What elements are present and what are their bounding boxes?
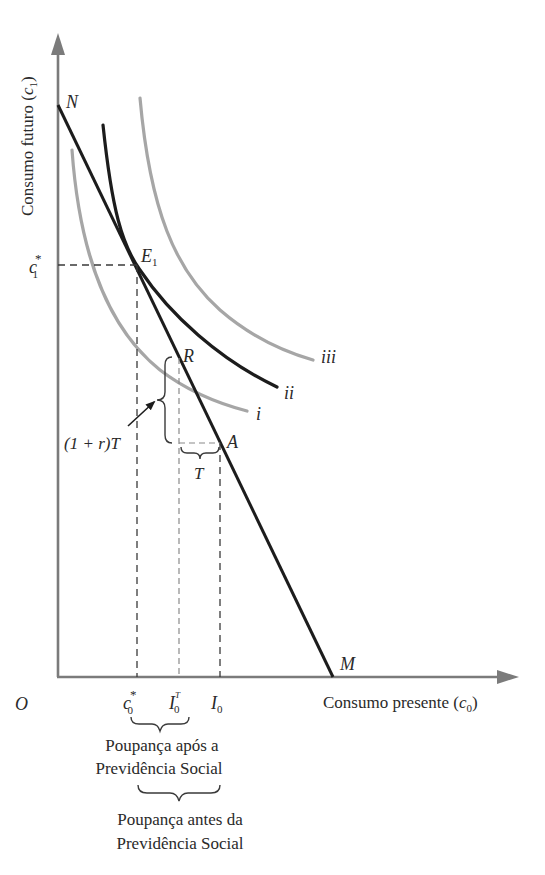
point-R-label: R	[182, 346, 194, 366]
tick-c1-star: c*1	[29, 251, 42, 280]
y-axis-arrow-icon	[51, 33, 65, 55]
intertemporal-consumption-diagram: Consumo futuro (c1) Consumo presente (c0…	[0, 0, 545, 875]
indifference-curve-iii	[140, 98, 313, 360]
arrow-to-brace-icon	[128, 402, 154, 426]
saving-before-line2: Previdência Social	[117, 834, 244, 853]
tick-c0-star: c*0	[123, 687, 137, 716]
tick-I0: I0	[210, 693, 223, 715]
point-N-label: N	[65, 92, 79, 112]
y-axis-label: Consumo futuro (c1)	[18, 76, 39, 216]
brace-saving-before	[138, 785, 220, 801]
point-E1-label: E1	[140, 246, 158, 268]
curve-ii-label: ii	[284, 383, 294, 403]
tick-I0-T: IT0	[168, 690, 181, 715]
saving-after-line1: Poupança após a	[105, 736, 219, 755]
saving-after-line2: Previdência Social	[96, 759, 223, 778]
point-A-label: A	[226, 432, 239, 452]
curve-iii-label: iii	[321, 347, 336, 367]
curve-i-label: i	[256, 404, 261, 424]
origin-label: O	[15, 694, 28, 714]
brace-T	[181, 447, 219, 459]
point-M-label: M	[339, 654, 356, 674]
brace-saving-after	[131, 717, 189, 731]
transfer-future-label: (1 + r)T	[64, 434, 121, 453]
axes	[51, 33, 519, 684]
x-axis-label: Consumo presente (c0)	[323, 693, 478, 714]
x-axis-arrow-icon	[497, 670, 519, 684]
saving-before-line1: Poupança antes da	[117, 810, 243, 829]
transfer-present-label: T	[194, 464, 205, 483]
